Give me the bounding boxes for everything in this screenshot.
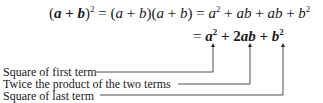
label-square-last-term: Square of last term [3,90,94,102]
